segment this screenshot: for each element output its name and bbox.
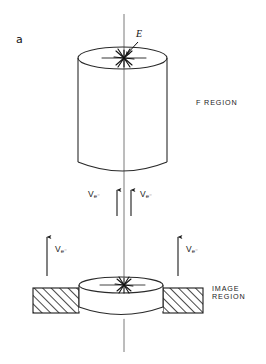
velocity-subscript: e⁻ xyxy=(146,193,152,199)
velocity-subscript: e⁻ xyxy=(94,193,100,199)
velocity-label-down-right: Ve⁻ xyxy=(140,190,152,200)
image-region-label: IMAGEREGION xyxy=(212,285,245,301)
velocity-label-down-left: Ve⁻ xyxy=(88,190,100,200)
lower-disc xyxy=(79,277,163,319)
hatched-bar-right xyxy=(163,288,203,313)
velocity-subscript: e⁻ xyxy=(61,248,67,254)
source-label-e: E xyxy=(136,28,142,39)
hatched-bar-left xyxy=(33,288,79,313)
velocity-subscript: e⁻ xyxy=(192,248,198,254)
f-region-label: F REGION xyxy=(196,99,238,107)
velocity-label-up-right: Ve⁻ xyxy=(186,245,198,255)
upward-drift-arrows xyxy=(47,237,178,276)
image-region-line2: REGION xyxy=(212,292,245,301)
upper-cylinder xyxy=(78,47,167,171)
velocity-label-up-left: Ve⁻ xyxy=(55,245,67,255)
diagram-artwork xyxy=(0,0,266,364)
panel-label: a xyxy=(16,34,23,46)
source-leader-line xyxy=(126,42,138,55)
figure-panel-a: a E F REGION IMAGEREGION Ve⁻ Ve⁻ Ve⁻ Ve⁻ xyxy=(0,0,266,364)
explosion-burst-top xyxy=(102,49,146,67)
